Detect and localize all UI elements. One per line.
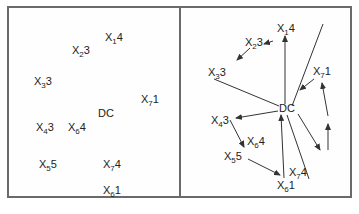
node-x4-right: X43 [211, 114, 229, 129]
node-x5-right: X55 [224, 150, 242, 165]
edge-x6-dc [281, 115, 284, 178]
left-panel: X14 X23 X33 X71 DC X43 X64 X55 X74 X61 [34, 31, 159, 199]
node-x3-left: X33 [34, 75, 52, 90]
node-x4-left: X43 [36, 121, 54, 136]
node-x7-4-left: X74 [103, 158, 121, 173]
edge-x2-dir [237, 48, 250, 60]
right-panel: X14 X23 X33 X71 DC X43 X64 X55 X74 X61 [208, 22, 331, 194]
node-x6-4-right: X64 [247, 135, 265, 150]
node-x6-1-left: X61 [103, 184, 121, 199]
node-x6-1-right: X61 [277, 179, 295, 194]
edge-x4-x6 [230, 120, 244, 147]
node-x6-4-left: X64 [68, 121, 86, 136]
edge-x5-x6 [248, 159, 280, 175]
node-x7-1-right: X71 [313, 65, 331, 80]
edge-dc-x3 [214, 79, 279, 106]
node-x5-left: X55 [39, 158, 57, 173]
node-dc-left: DC [98, 107, 114, 119]
node-x2-right: X23 [245, 36, 263, 51]
node-dc-right: DC [279, 102, 295, 114]
edge-x1-x2 [264, 41, 273, 44]
node-x7-1-left: X71 [141, 93, 159, 108]
node-x1-right: X14 [277, 22, 295, 37]
node-x3-right: X33 [208, 66, 226, 81]
node-x2-left: X23 [72, 44, 90, 59]
diagram-canvas: X14 X23 X33 X71 DC X43 X64 X55 X74 X61 X… [0, 0, 359, 214]
edge-up-x7 [322, 83, 328, 116]
edge-dc-x4 [236, 111, 278, 118]
node-x1-left: X14 [105, 31, 123, 46]
edge-dc-down [298, 114, 320, 150]
